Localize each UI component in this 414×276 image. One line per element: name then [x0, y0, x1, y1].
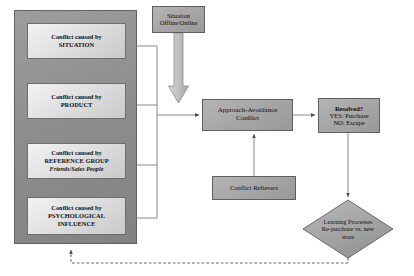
- resolved-box-yes: YES: Purchase: [329, 112, 368, 119]
- conflict-relievers-box[interactable]: Conflict Relievers: [212, 176, 296, 200]
- cause-box-psychological-line1: Conflict caused by: [51, 204, 101, 212]
- cause-box-reference-group-line2: REFERENCE GROUP: [44, 157, 108, 165]
- cause-box-situation-line2: SITUATION: [59, 41, 94, 49]
- learning-processes-diamond: [303, 200, 393, 258]
- feedback-loop-dashed: [71, 250, 348, 263]
- resolved-outcome-box[interactable]: Resolved? YES: Purchase NO: Escape: [318, 98, 380, 133]
- cause-box-situation[interactable]: Conflict caused by SITUATION: [27, 23, 126, 59]
- conflict-causes-panel: Conflict caused by SITUATION Conflict ca…: [14, 10, 137, 244]
- cause-box-psychological-line2: PSYCHOLOGICAL: [48, 212, 105, 220]
- situation-box-line2: Offline/Online: [160, 20, 198, 27]
- block-arrow-situation-down: [169, 33, 189, 103]
- cause-box-reference-group[interactable]: Conflict caused by REFERENCE GROUP Frien…: [27, 143, 126, 179]
- approach-box-line2: Conflict: [236, 115, 259, 123]
- cause-box-situation-line1: Conflict caused by: [51, 33, 101, 41]
- cause-box-product-line1: Conflict caused by: [51, 93, 101, 101]
- cause-box-product[interactable]: Conflict caused by PRODUCT: [27, 83, 126, 119]
- situation-offline-online-box[interactable]: Situation Offline/Online: [152, 6, 205, 33]
- cause-box-psychological-influence[interactable]: Conflict caused by PSYCHOLOGICAL INFLUEN…: [27, 197, 126, 235]
- cause-box-reference-group-line1: Conflict caused by: [51, 149, 101, 157]
- approach-avoidance-conflict-box[interactable]: Approach-Avoidance Conflict: [202, 99, 293, 131]
- cause-box-product-line2: PRODUCT: [61, 101, 93, 109]
- diagram-canvas: Conflict caused by SITUATION Conflict ca…: [0, 0, 414, 276]
- cause-box-psychological-line3: INFLUENCE: [58, 220, 96, 228]
- conflict-relievers-label: Conflict Relievers: [230, 184, 278, 191]
- resolved-box-no: NO: Escape: [333, 119, 364, 126]
- resolved-box-heading: Resolved?: [335, 105, 363, 112]
- cause-box-reference-group-line3: Friends/Sales People: [50, 165, 104, 173]
